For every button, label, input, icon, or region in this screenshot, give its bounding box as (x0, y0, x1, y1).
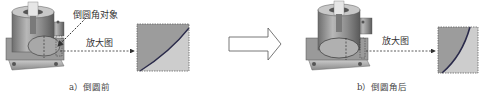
transition-arrow-icon (229, 28, 281, 60)
fillet-target-label: 倒圆角对象 (73, 8, 118, 21)
part-after-fillet (306, 1, 372, 70)
zoom-label-b: 放大图 (382, 34, 409, 47)
magnified-view-after (438, 27, 478, 73)
zoom-label-a: 放大图 (86, 36, 113, 49)
part-before-fillet (6, 2, 64, 70)
magnified-view-before (137, 24, 189, 71)
caption-before: a）倒圆前 (69, 80, 110, 92)
caption-after: b）倒圆角后 (357, 80, 407, 92)
